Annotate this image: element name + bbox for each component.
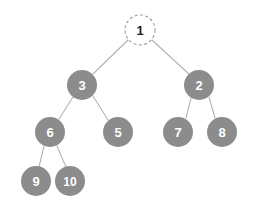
tree-node-2[interactable]: 2	[184, 70, 214, 100]
node-circle-3[interactable]	[67, 70, 97, 100]
tree-edge-n6-to-n9	[39, 146, 44, 167]
tree-node-5[interactable]: 5	[103, 117, 133, 147]
tree-nodes-group: 1326578910	[21, 15, 237, 196]
tree-edge-n6-to-n10	[57, 146, 66, 167]
tree-node-1[interactable]: 1	[125, 15, 155, 45]
tree-node-7[interactable]: 7	[163, 117, 193, 147]
tree-edges-group	[39, 40, 215, 167]
node-circle-10[interactable]	[55, 166, 85, 196]
tree-node-6[interactable]: 6	[35, 117, 65, 147]
node-circle-7[interactable]	[163, 117, 193, 147]
tree-edge-n3-to-n6	[59, 97, 73, 119]
tree-node-10[interactable]: 10	[55, 166, 85, 196]
tree-canvas: 1326578910	[0, 0, 254, 209]
tree-edge-n3-to-n5	[93, 96, 108, 120]
tree-node-3[interactable]: 3	[67, 70, 97, 100]
tree-node-8[interactable]: 8	[207, 117, 237, 147]
tree-edge-n2-to-n8	[209, 97, 215, 118]
tree-edge-n1-to-n3	[93, 40, 128, 74]
node-circle-2[interactable]	[184, 70, 214, 100]
node-circle-9[interactable]	[21, 166, 51, 196]
tree-edge-n2-to-n7	[186, 98, 191, 118]
node-circle-8[interactable]	[207, 117, 237, 147]
node-circle-5[interactable]	[103, 117, 133, 147]
tree-node-9[interactable]: 9	[21, 166, 51, 196]
node-circle-6[interactable]	[35, 117, 65, 147]
tree-edge-n1-to-n2	[152, 40, 189, 74]
binary-tree-figure: 1326578910	[0, 0, 254, 209]
node-circle-1[interactable]	[125, 15, 155, 45]
